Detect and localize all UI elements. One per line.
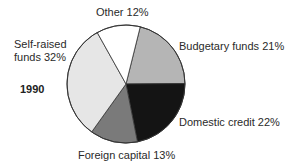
chart-year-title: 1990 (20, 83, 44, 95)
pie-chart (0, 0, 290, 164)
label-domestic: Domestic credit 22% (179, 116, 280, 129)
label-self-raised: Self-raised funds 32% (14, 38, 67, 64)
label-foreign: Foreign capital 13% (78, 149, 175, 162)
label-self-raised-line2: funds 32% (14, 51, 67, 64)
label-other: Other 12% (96, 6, 149, 19)
label-budgetary: Budgetary funds 21% (179, 40, 284, 53)
label-self-raised-line1: Self-raised (14, 38, 67, 51)
